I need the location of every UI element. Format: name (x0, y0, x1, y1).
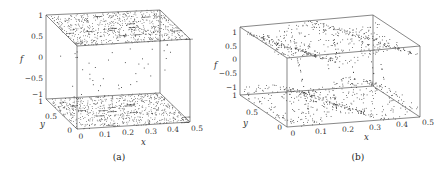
panel-a-box (46, 10, 190, 129)
z-tick: 0.5 (31, 32, 43, 41)
panel-b-caption: (b) (352, 152, 365, 162)
z-tick: 0.5 (225, 42, 237, 51)
y-axis-label: y (242, 118, 248, 128)
x-tick: 0.5 (422, 118, 434, 127)
panel-b-y-ticks: 1 0.5 0 (232, 91, 282, 132)
panel-a-z-ticks: 1 0.5 0 −0.5 −1 (25, 11, 43, 99)
panel-b-points (244, 21, 418, 127)
panel-a-y-ticks: 1 0.5 0 (38, 97, 72, 135)
z-axis-label: f (19, 54, 25, 64)
x-tick: 0.2 (122, 128, 134, 137)
x-tick: 0 (79, 132, 84, 141)
y-tick: 0.5 (45, 112, 57, 121)
z-tick: 0 (232, 55, 237, 64)
z-tick: −0.5 (25, 74, 43, 83)
panel-a-3d-scatter: 1 0.5 0 −0.5 −1 f 1 0.5 0 y 0 0.1 0.2 0.… (19, 10, 203, 162)
panel-a-points (51, 10, 192, 129)
panel-b-z-ticks: 1 0.5 0 −0.5 −1 (219, 28, 237, 92)
z-tick: 0 (38, 53, 43, 62)
z-tick: 1 (232, 28, 237, 37)
x-tick: 0 (291, 129, 296, 138)
y-tick: 0 (67, 126, 72, 135)
figure-canvas: 1 0.5 0 −0.5 −1 f 1 0.5 0 y 0 0.1 0.2 0.… (0, 0, 448, 174)
y-tick: 0.5 (246, 108, 258, 117)
z-tick: 1 (38, 11, 43, 20)
x-tick: 0.5 (191, 124, 203, 133)
x-axis-label: x (364, 132, 369, 142)
y-tick: 0 (277, 123, 282, 132)
x-tick: 0.1 (315, 127, 327, 136)
panel-b-3d-scatter: 1 0.5 0 −0.5 −1 f 1 0.5 0 y 0 0.1 0.2 0.… (213, 15, 434, 162)
x-tick: 0.1 (99, 130, 111, 139)
x-tick: 0.4 (396, 120, 408, 129)
y-tick: 1 (232, 91, 237, 100)
y-axis-label: y (39, 119, 45, 129)
x-tick: 0.4 (167, 125, 179, 134)
x-tick: 0.2 (342, 125, 354, 134)
x-tick: 0.3 (369, 123, 381, 132)
panel-a-caption: (a) (113, 152, 125, 162)
z-tick: −0.5 (219, 69, 237, 78)
x-tick: 0.3 (145, 127, 157, 136)
x-axis-label: x (141, 137, 146, 147)
y-tick: 1 (38, 97, 43, 106)
